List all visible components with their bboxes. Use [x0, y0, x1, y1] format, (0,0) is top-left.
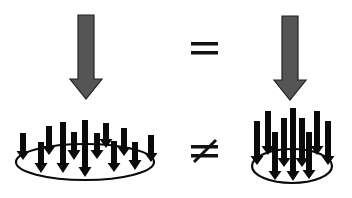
equals-symbol [191, 42, 218, 55]
small-arrow-icon [68, 132, 81, 160]
small-arrow-icon [57, 122, 70, 173]
small-arrow-icon [251, 121, 264, 165]
small-arrow-icon [79, 120, 92, 177]
not-equals-symbol [191, 140, 218, 162]
left-big-arrow-icon [70, 15, 102, 99]
small-arrow-icon [322, 121, 335, 165]
small-arrow-icon [287, 108, 300, 181]
small-arrow-icon [145, 135, 158, 162]
small-arrow-icon [311, 111, 324, 155]
small-arrow-icon [129, 142, 142, 170]
right-big-arrow-icon [274, 16, 306, 100]
force-pressure-diagram [0, 0, 352, 198]
small-arrow-icon [91, 133, 104, 159]
small-arrows [251, 108, 335, 181]
small-arrow-icon [118, 128, 131, 156]
left-distributed-load-group [16, 120, 158, 180]
small-arrow-icon [278, 118, 291, 167]
right-concentrated-load-group [251, 108, 335, 183]
small-arrow-icon [43, 126, 56, 155]
